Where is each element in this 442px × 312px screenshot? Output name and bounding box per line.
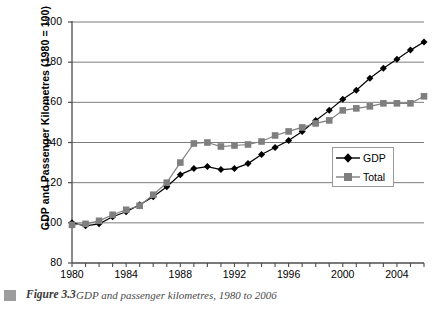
x-tick-label: 1980	[52, 269, 92, 280]
legend-marker-square-icon	[335, 168, 361, 186]
legend-label-total: Total	[363, 171, 385, 183]
x-tick-label: 2004	[377, 269, 417, 280]
y-tick-label: 80	[32, 257, 62, 268]
chart-canvas	[0, 0, 442, 282]
caption-figure-number: Figure 3.3	[26, 288, 76, 300]
legend-label-gdp: GDP	[363, 152, 386, 164]
figure-caption: Figure 3.3 GDP and passenger kilometres,…	[0, 288, 442, 308]
y-tick-label: 100	[32, 217, 62, 228]
caption-marker-icon	[4, 290, 16, 301]
figure-3-3: GDP and Passenger Kilometres (1980 = 100…	[0, 0, 442, 312]
x-tick-label: 1988	[160, 269, 200, 280]
x-tick-label: 1996	[269, 269, 309, 280]
x-tick-label: 1984	[106, 269, 146, 280]
y-axis-title: GDP and Passenger Kilometres (1980 = 100…	[39, 0, 51, 243]
y-tick-label: 120	[32, 177, 62, 188]
legend-item-gdp: GDP	[335, 149, 393, 167]
caption-description: GDP and passenger kilometres, 1980 to 20…	[76, 289, 277, 301]
legend-marker-diamond-icon	[335, 149, 361, 167]
y-tick-label: 160	[32, 96, 62, 107]
y-tick-label: 200	[32, 16, 62, 27]
y-tick-label: 140	[32, 137, 62, 148]
x-tick-label: 1992	[214, 269, 254, 280]
y-tick-label: 180	[32, 56, 62, 67]
chart-plot-frame: GDP and Passenger Kilometres (1980 = 100…	[0, 0, 442, 282]
x-tick-label: 2000	[323, 269, 363, 280]
legend-item-total: Total	[335, 168, 393, 186]
chart-legend: GDP Total	[332, 147, 394, 187]
